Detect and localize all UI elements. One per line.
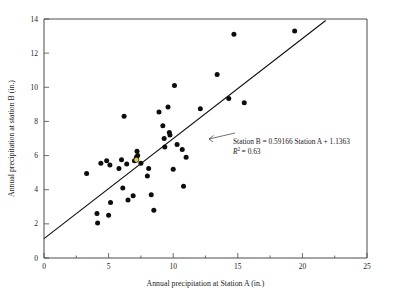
scatter-point [162,145,167,150]
x-axis-title: Annual precipitation at Station A (in.) [147,279,265,288]
annotation-block: Station B = 0.59166 Station A + 1.1363 R… [232,137,350,156]
y-tick-label: 0 [34,254,38,263]
scatter-point [160,123,165,128]
x-tick-label: 25 [363,262,371,271]
scatter-point [162,136,167,141]
scatter-point [94,211,99,216]
scatter-point [122,114,127,119]
y-axis-ticks [44,19,49,258]
scatter-point [104,158,109,163]
scatter-point [119,157,124,162]
x-axis-ticks [44,253,367,258]
scatter-point [108,200,113,205]
scatter-point [146,166,151,171]
scatter-point [242,100,247,105]
scatter-point [226,96,231,101]
scatter-point [145,174,150,179]
scatter-plot-figure: 0 2 4 6 8 10 12 14 0 5 10 15 [0,0,396,300]
y-tick-label: 8 [34,117,38,126]
scatter-point [125,197,130,202]
y-tick-label: 4 [34,185,38,194]
scatter-point [135,149,140,154]
scatter-point [198,106,203,111]
regression-line [44,21,326,239]
scatter-point [292,28,297,33]
scatter-point [181,184,186,189]
y-axis-tick-labels: 0 2 4 6 8 10 12 14 [31,15,39,263]
scatter-point [120,186,125,191]
annotation-leader [209,133,235,142]
r-squared-label: R2= 0.63 [232,146,261,156]
x-tick-label: 20 [299,262,307,271]
scatter-point [231,32,236,37]
y-tick-label: 14 [31,15,39,24]
scatter-point [166,104,171,109]
scatter-point [149,192,154,197]
scatter-point [124,162,129,167]
scatter-point [106,213,111,218]
scatter-point [131,193,136,198]
scatter-point [156,110,161,115]
scatter-point-highlighted [134,157,139,162]
scatter-point [180,147,185,152]
highlighted-points-layer [134,157,139,162]
x-axis-tick-labels: 0 5 10 15 20 25 [42,262,371,271]
scatter-point [84,171,89,176]
x-tick-label: 5 [107,262,111,271]
scatter-point [175,142,180,147]
data-points-layer [84,28,297,225]
x-tick-label: 10 [169,262,177,271]
scatter-point [98,161,103,166]
regression-equation-label: Station B = 0.59166 Station A + 1.1363 [233,137,350,146]
scatter-point [151,208,156,213]
scatter-point [171,167,176,172]
scatter-point [116,166,121,171]
scatter-point [172,83,177,88]
scatter-point [138,161,143,166]
scatter-point [184,155,189,160]
r-squared-value: = 0.63 [242,147,261,156]
scatter-point [215,72,220,77]
x-tick-label: 15 [234,262,242,271]
y-tick-label: 10 [31,83,39,92]
scatter-point [107,162,112,167]
y-axis-title: Annual precipitation at station B (in.) [7,80,16,197]
chart-canvas: 0 2 4 6 8 10 12 14 0 5 10 15 [0,0,396,300]
scatter-point [95,221,100,226]
x-tick-label: 0 [42,262,46,271]
y-tick-label: 12 [31,49,39,58]
y-tick-label: 6 [34,151,38,160]
scatter-point [167,133,172,138]
y-tick-label: 2 [34,219,38,228]
r-squared-exponent: 2 [238,146,241,152]
